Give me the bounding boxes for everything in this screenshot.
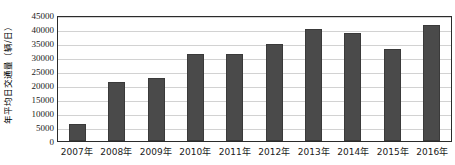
bar [266,44,283,141]
x-axis-tick-label: 2016年 [413,145,453,163]
y-axis-tick-label: 25000 [32,67,55,77]
bars-layer [58,17,451,141]
x-axis-tick-label: 2010年 [176,145,216,163]
y-axis-title: 年平均日交通量（辆/日） [0,0,15,146]
bar-slot [333,17,372,141]
x-axis-tick-labels: 2007年2008年2009年2010年2011年2012年2013年2014年… [57,145,452,163]
bar-slot [412,17,451,141]
bar-slot [97,17,136,141]
bar [187,54,204,141]
y-axis-tick-label: 35000 [32,39,55,49]
bar [344,33,361,141]
y-axis-tick-label: 10000 [32,109,55,119]
x-axis-tick-label: 2013年 [294,145,334,163]
x-axis-tick-label: 2009年 [136,145,176,163]
y-axis-title-label: 年平均日交通量（辆/日） [1,22,13,124]
y-axis-tick-label: 40000 [32,25,55,35]
bar-slot [176,17,215,141]
bar-slot [215,17,254,141]
y-axis-tick-labels: 0500010000150002000025000300003500040000… [16,10,56,144]
x-axis-tick-label: 2014年 [334,145,374,163]
bar [423,25,440,141]
y-axis-tick-label: 30000 [32,53,55,63]
x-axis-tick-label: 2008年 [97,145,137,163]
bar [226,54,243,141]
bar-slot [254,17,293,141]
bar-slot [294,17,333,141]
y-axis-tick-label: 20000 [32,81,55,91]
y-axis-tick-label: 0 [50,137,55,147]
bar [148,78,165,141]
bar-slot [58,17,97,141]
bar [108,82,125,141]
bar [305,29,322,141]
y-axis-tick-label: 5000 [36,123,54,133]
x-axis-tick-label: 2007年 [57,145,97,163]
bar [384,49,401,141]
bar-slot [137,17,176,141]
y-axis-tick-label: 45000 [32,11,55,21]
plot-area [57,16,452,142]
x-axis-tick-label: 2012年 [255,145,295,163]
y-axis-tick-label: 15000 [32,95,55,105]
bar [69,124,86,141]
x-axis-tick-label: 2011年 [215,145,255,163]
x-axis-tick-label: 2015年 [373,145,413,163]
bar-slot [372,17,411,141]
bar-chart: 年平均日交通量（辆/日） 050001000015000200002500030… [0,0,455,165]
